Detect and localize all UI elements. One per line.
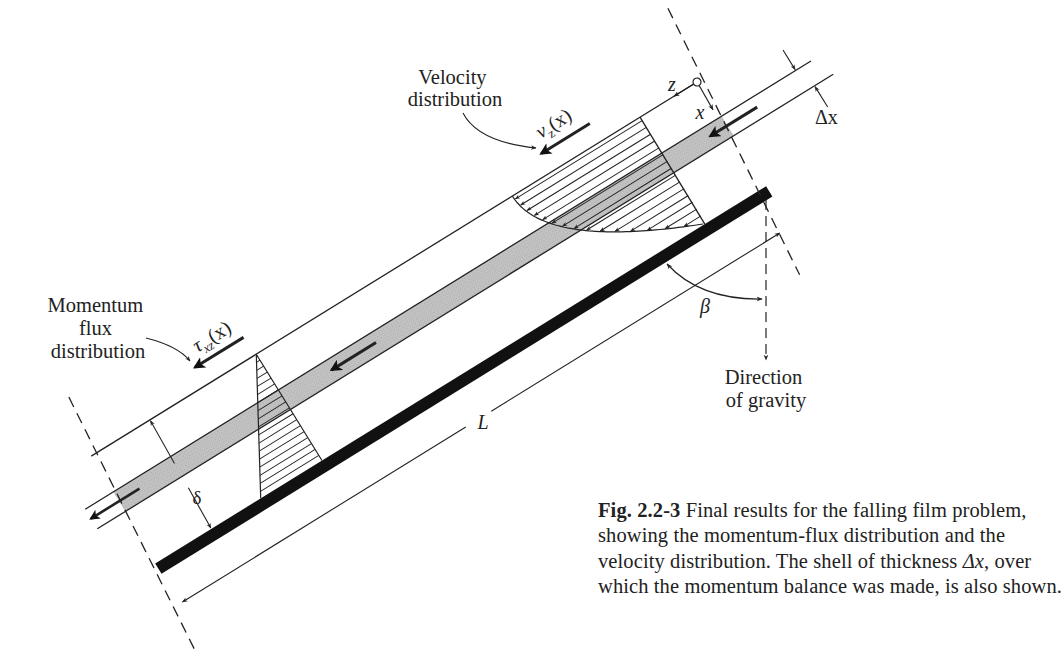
- velocity-symbol: vz(x): [531, 104, 577, 146]
- caption-line-4: which the momentum balance was made, is …: [598, 574, 1036, 599]
- momentum-leader-arrow: [146, 338, 190, 361]
- momentum-hatch-line: [260, 444, 311, 476]
- gravity-label: Direction of gravity: [725, 366, 808, 412]
- caption-symbol: Δx: [963, 550, 984, 572]
- momentum-title: Momentum flux distribution: [48, 294, 149, 362]
- z-axis-label: z: [667, 73, 676, 95]
- velocity-vector-arrow-icon: [563, 161, 668, 226]
- velocity-leader-arrow: [463, 113, 536, 148]
- caption-text: velocity distribution. The shell of thic…: [598, 550, 963, 572]
- length-label: L: [476, 411, 488, 433]
- beta-label: β: [699, 295, 710, 318]
- x-axis-label: x: [695, 101, 705, 123]
- momentum-hatch-line: [257, 366, 264, 370]
- velocity-title: Velocity distribution: [408, 66, 503, 110]
- shell-bottom-line: [97, 74, 833, 529]
- momentum-hatch-line: [257, 372, 267, 378]
- caption-text: , over: [984, 550, 1031, 572]
- delta-x-label: Δx: [815, 106, 838, 128]
- momentum-hatch-line: [258, 384, 275, 395]
- left-boundary-dashed: [47, 397, 218, 652]
- figure-number: Fig. 2.2-3: [598, 499, 680, 521]
- z-axis-arrow-icon: [674, 83, 695, 96]
- figure-caption: Fig. 2.2-3 Final results for the falling…: [598, 498, 1036, 600]
- caption-line-2: showing the momentum-flux distribution a…: [598, 523, 1036, 548]
- film-thickness-label: δ: [193, 487, 202, 508]
- tau-symbol: τxz(x): [188, 316, 237, 360]
- svg-text:vz(x): vz(x): [531, 104, 577, 146]
- right-boundary-dashed: [644, 8, 823, 275]
- svg-text:τxz(x): τxz(x): [188, 316, 237, 360]
- caption-line-1: Fig. 2.2-3 Final results for the falling…: [598, 498, 1036, 523]
- shell-top-line: [85, 61, 811, 509]
- delta-x-arrow-icon: [815, 87, 828, 107]
- caption-line-3: velocity distribution. The shell of thic…: [598, 549, 1036, 574]
- momentum-hatch-line: [260, 438, 308, 468]
- caption-text: Final results for the falling film probl…: [680, 499, 1026, 521]
- momentum-hatch-line: [260, 432, 305, 460]
- delta-x-arrow-icon: [783, 50, 795, 70]
- momentum-hatch-line: [259, 426, 300, 451]
- length-dimension-line: [182, 427, 465, 602]
- liquid-surface-line: [91, 82, 697, 456]
- origin-circle-icon: [691, 76, 702, 87]
- shell-band: [113, 116, 733, 511]
- velocity-vector-arrow-icon: [631, 195, 689, 231]
- momentum-hatch-line: [257, 378, 271, 386]
